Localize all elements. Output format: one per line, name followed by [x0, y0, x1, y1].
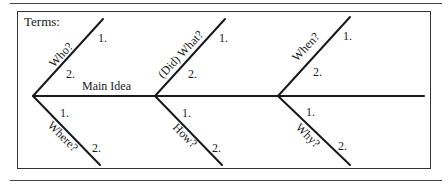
slot-how-1: 1. [182, 106, 191, 120]
slot-why-1: 1. [306, 105, 315, 119]
slot-when-1: 1. [343, 29, 352, 43]
branch-label-how: How? [170, 120, 200, 150]
branch-when [278, 17, 350, 96]
branch-label-why: Why? [293, 120, 323, 150]
branch-label-did-what: (Did) What? [155, 28, 206, 81]
branch-label-where: Where? [45, 118, 81, 154]
slot-why-2: 2. [338, 139, 347, 153]
slot-who-1: 1. [98, 31, 107, 45]
main-idea-label: Main Idea [82, 79, 132, 93]
slot-how-2: 2. [212, 141, 221, 155]
slot-when-2: 2. [313, 65, 322, 79]
slot-what-1: 1. [219, 31, 228, 45]
branch-did-what [155, 19, 225, 96]
slot-who-2: 2. [66, 67, 75, 81]
fishbone-diagram: Main Idea Who? 1. 2. Where? 1. 2. (Did) … [0, 0, 448, 184]
branch-label-when: When? [289, 30, 322, 64]
slot-where-1: 1. [60, 106, 69, 120]
slot-what-2: 2. [188, 67, 197, 81]
slot-where-2: 2. [92, 141, 101, 155]
bottom-rule [10, 180, 442, 181]
